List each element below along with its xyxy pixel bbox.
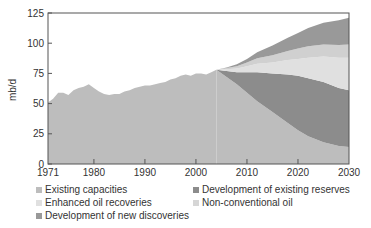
y-tick-label: 125 <box>27 8 44 19</box>
x-tick-label: 2020 <box>287 167 310 178</box>
x-tick-label: 1980 <box>83 167 106 178</box>
y-tick-label: 75 <box>33 68 45 79</box>
x-tick-label: 1990 <box>134 167 157 178</box>
y-tick-label: 50 <box>33 98 45 109</box>
x-tick-label: 2000 <box>185 167 208 178</box>
area-historical <box>48 70 216 164</box>
x-tick-label: 2010 <box>236 167 259 178</box>
x-tick-label: 1971 <box>37 167 60 178</box>
x-tick-label: 2030 <box>338 167 361 178</box>
y-axis-label: mb/d <box>7 79 18 101</box>
y-tick-label: 25 <box>33 128 45 139</box>
y-tick-label: 100 <box>27 38 44 49</box>
chart: 0255075100125 19711980199020002010202020… <box>0 0 371 228</box>
area-series <box>48 18 349 164</box>
